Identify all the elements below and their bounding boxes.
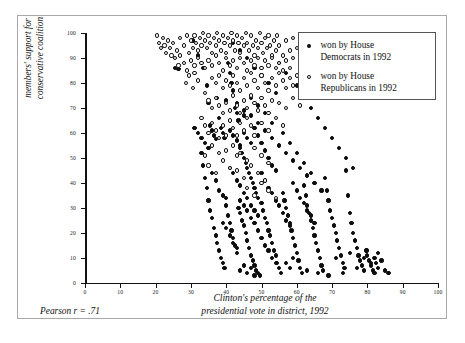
data-point bbox=[245, 136, 249, 140]
data-point bbox=[251, 181, 255, 185]
data-point bbox=[242, 176, 246, 180]
data-point bbox=[215, 31, 219, 35]
x-tick bbox=[226, 284, 227, 288]
data-point bbox=[319, 188, 323, 192]
data-point bbox=[291, 181, 295, 185]
data-point bbox=[249, 33, 253, 37]
data-point bbox=[221, 33, 225, 37]
data-point bbox=[263, 58, 267, 62]
data-point bbox=[249, 123, 253, 127]
chart-legend: won by House Democrats in 1992 won by Ho… bbox=[298, 32, 436, 100]
data-point bbox=[157, 41, 161, 45]
data-point bbox=[235, 103, 239, 107]
data-point bbox=[210, 143, 214, 147]
data-point bbox=[348, 251, 352, 255]
data-point bbox=[281, 68, 285, 72]
data-point bbox=[217, 151, 221, 155]
data-point bbox=[212, 226, 216, 230]
data-point bbox=[201, 163, 205, 167]
data-point bbox=[284, 151, 288, 155]
data-point bbox=[252, 193, 256, 197]
scatter-plot-figure: 0102030405060708090100 01020304050607080… bbox=[0, 0, 465, 343]
data-point bbox=[236, 41, 240, 45]
data-point bbox=[161, 36, 165, 40]
data-point bbox=[304, 193, 308, 197]
data-point bbox=[263, 103, 267, 107]
data-point bbox=[298, 266, 302, 270]
data-point bbox=[277, 266, 281, 270]
data-point bbox=[238, 51, 242, 55]
data-point bbox=[242, 203, 246, 207]
data-point bbox=[274, 261, 278, 265]
data-point bbox=[284, 206, 288, 210]
data-point bbox=[203, 123, 207, 127]
data-point bbox=[192, 33, 196, 37]
legend-republicans-line1: won by House bbox=[320, 71, 374, 81]
data-point bbox=[224, 148, 228, 152]
data-point bbox=[228, 108, 232, 112]
data-point bbox=[219, 48, 223, 52]
data-point bbox=[259, 73, 263, 77]
data-point bbox=[184, 81, 188, 85]
data-point bbox=[289, 228, 293, 232]
data-point bbox=[196, 131, 200, 135]
data-point bbox=[217, 73, 221, 77]
data-point bbox=[309, 213, 313, 217]
data-point bbox=[256, 213, 260, 217]
y-tick-label: 20 bbox=[50, 230, 76, 236]
data-point bbox=[295, 188, 299, 192]
x-tick-label: 90 bbox=[391, 289, 415, 295]
data-point bbox=[214, 96, 218, 100]
data-point bbox=[325, 188, 329, 192]
filled-circle-icon bbox=[307, 44, 311, 48]
data-point bbox=[231, 38, 235, 42]
data-point bbox=[288, 141, 292, 145]
data-point bbox=[206, 98, 210, 102]
data-point bbox=[175, 48, 179, 52]
data-point bbox=[155, 33, 159, 37]
data-point bbox=[256, 108, 260, 112]
data-point bbox=[348, 211, 352, 215]
data-point bbox=[298, 196, 302, 200]
data-point bbox=[229, 31, 233, 35]
y-tick-label: 40 bbox=[50, 180, 76, 186]
data-point bbox=[222, 266, 226, 270]
data-point bbox=[185, 68, 189, 72]
pearson-annotation: Pearson r = .71 bbox=[40, 306, 100, 316]
data-point bbox=[228, 118, 232, 122]
data-point bbox=[288, 66, 292, 70]
data-point bbox=[189, 58, 193, 62]
data-point bbox=[379, 258, 383, 262]
data-point bbox=[249, 253, 253, 257]
data-point bbox=[199, 43, 203, 47]
data-point bbox=[305, 268, 309, 272]
data-point bbox=[277, 143, 281, 147]
data-point bbox=[258, 273, 262, 277]
data-point bbox=[309, 106, 313, 110]
data-point bbox=[291, 256, 295, 260]
data-point bbox=[182, 43, 186, 47]
data-point bbox=[252, 101, 256, 105]
data-point bbox=[217, 61, 221, 65]
data-point bbox=[372, 256, 376, 260]
data-point bbox=[318, 256, 322, 260]
x-tick bbox=[297, 284, 298, 288]
data-point bbox=[198, 36, 202, 40]
data-point bbox=[277, 203, 281, 207]
data-point bbox=[252, 146, 256, 150]
data-point bbox=[291, 96, 295, 100]
data-point bbox=[226, 213, 230, 217]
data-point bbox=[245, 186, 249, 190]
data-point bbox=[244, 31, 248, 35]
data-point bbox=[176, 63, 180, 67]
data-point bbox=[266, 128, 270, 132]
data-point bbox=[206, 131, 210, 135]
data-point bbox=[277, 71, 281, 75]
data-point bbox=[251, 258, 255, 262]
data-point bbox=[252, 208, 256, 212]
y-tick-label: 0 bbox=[50, 280, 76, 286]
legend-entry-republicans: won by House Republicans in 1992 bbox=[299, 71, 435, 94]
data-point bbox=[281, 191, 285, 195]
data-point bbox=[203, 38, 207, 42]
data-point bbox=[335, 238, 339, 242]
